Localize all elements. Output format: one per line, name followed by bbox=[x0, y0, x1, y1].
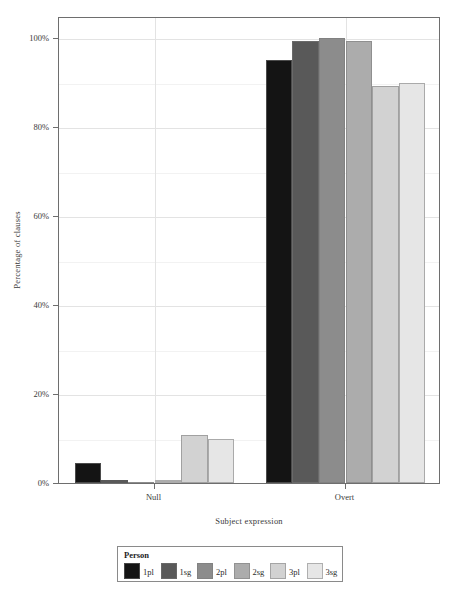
bar-overt-3sg[interactable] bbox=[399, 83, 426, 483]
bar-null-2sg[interactable] bbox=[155, 480, 182, 483]
bar-null-1sg[interactable] bbox=[101, 480, 128, 483]
plot-panel bbox=[58, 17, 440, 484]
bar-chart-figure: Percentage of clauses 0%20%40%60%80%100%… bbox=[0, 0, 454, 596]
x-tick-mark bbox=[345, 484, 346, 489]
legend-label-3sg: 3sg bbox=[326, 567, 338, 577]
legend-swatch-2pl bbox=[197, 563, 213, 579]
gridline-horizontal bbox=[59, 39, 439, 40]
legend-swatch-1sg bbox=[161, 563, 177, 579]
legend-swatch-3sg bbox=[307, 563, 323, 579]
bar-overt-1sg[interactable] bbox=[292, 41, 319, 483]
x-tick-label-overt: Overt bbox=[305, 492, 385, 502]
y-tick-label: 0% bbox=[0, 478, 49, 488]
legend-label-1pl: 1pl bbox=[143, 567, 154, 577]
y-tick-label: 40% bbox=[0, 300, 49, 310]
y-tick-label: 60% bbox=[0, 211, 49, 221]
legend-swatch-1pl bbox=[124, 563, 140, 579]
gridline-horizontal-minor bbox=[59, 84, 439, 85]
y-axis-title: Percentage of clauses bbox=[10, 0, 24, 500]
legend-label-2pl: 2pl bbox=[216, 567, 227, 577]
bar-overt-2sg[interactable] bbox=[346, 41, 373, 483]
legend-swatch-2sg bbox=[234, 563, 250, 579]
legend-swatch-3pl bbox=[270, 563, 286, 579]
legend-box: Person 1pl1sg2pl2sg3pl3sg bbox=[117, 546, 343, 582]
bar-null-1pl[interactable] bbox=[75, 463, 102, 483]
legend-label-3pl: 3pl bbox=[289, 567, 300, 577]
bar-null-3sg[interactable] bbox=[208, 439, 235, 483]
x-tick-mark bbox=[154, 484, 155, 489]
y-tick-label: 80% bbox=[0, 122, 49, 132]
gridline-vertical bbox=[155, 18, 156, 483]
bar-overt-1pl[interactable] bbox=[266, 60, 293, 483]
bar-overt-3pl[interactable] bbox=[372, 86, 399, 483]
x-axis-title: Subject expression bbox=[58, 516, 440, 526]
x-tick-label-null: Null bbox=[114, 492, 194, 502]
legend-label-2sg: 2sg bbox=[253, 567, 265, 577]
bar-null-2pl[interactable] bbox=[128, 482, 155, 483]
legend-label-1sg: 1sg bbox=[180, 567, 192, 577]
bar-overt-2pl[interactable] bbox=[319, 38, 346, 483]
bar-null-3pl[interactable] bbox=[181, 435, 208, 483]
y-tick-label: 100% bbox=[0, 33, 49, 43]
legend-title: Person bbox=[124, 550, 149, 560]
y-tick-label: 20% bbox=[0, 389, 49, 399]
